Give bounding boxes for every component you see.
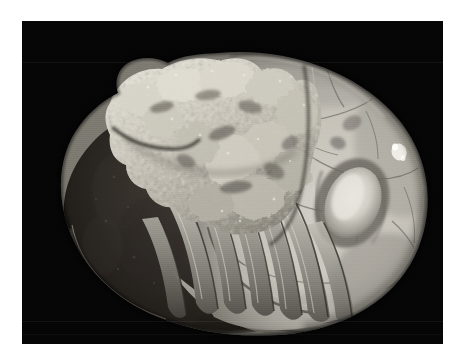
fossil-specimen-illustration <box>22 21 443 344</box>
fossil-body <box>22 21 443 344</box>
caption-strip <box>22 346 443 361</box>
photograph-page <box>0 0 466 363</box>
photo-plate <box>22 21 443 344</box>
